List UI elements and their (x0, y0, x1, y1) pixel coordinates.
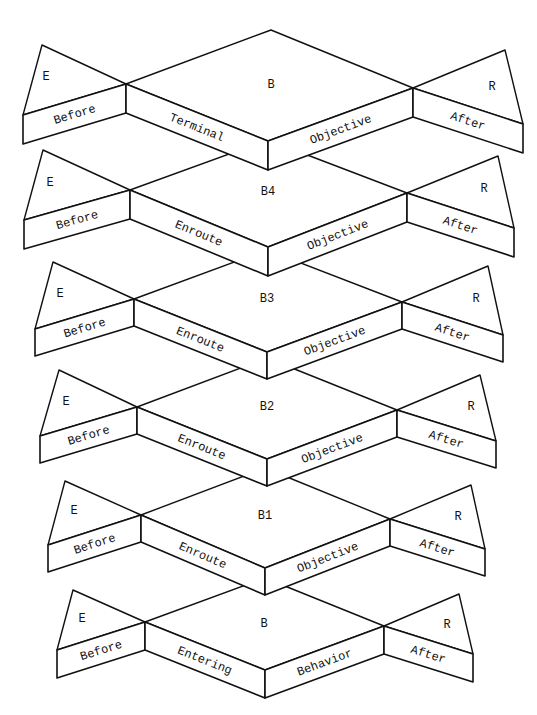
right-label: R (467, 400, 474, 414)
left-label: E (42, 70, 49, 84)
center-label: B3 (260, 292, 274, 306)
center-label: B4 (261, 185, 275, 199)
center-label: B (260, 617, 267, 631)
right-label: R (480, 182, 487, 196)
left-label: E (46, 176, 53, 190)
right-label: R (488, 80, 495, 94)
stacked-objectives-diagram: EBRBeforeEnteringBehaviorAfterEB1RBefore… (0, 0, 537, 715)
left-label: E (62, 395, 69, 409)
center-label: B (267, 78, 274, 92)
center-label: B1 (258, 509, 272, 523)
right-label: R (454, 510, 461, 524)
left-label: E (78, 612, 85, 626)
block-terminal: EBRBeforeTerminalObjectiveAfter (23, 30, 523, 170)
right-label: R (443, 618, 450, 632)
right-label: R (472, 292, 479, 306)
block-b1: EB1RBeforeEnrouteObjectiveAfter (48, 468, 485, 595)
center-label: B2 (260, 400, 274, 414)
block-entering: EBRBeforeEnteringBehaviorAfter (57, 578, 473, 698)
left-label: E (56, 287, 63, 301)
left-label: E (70, 504, 77, 518)
